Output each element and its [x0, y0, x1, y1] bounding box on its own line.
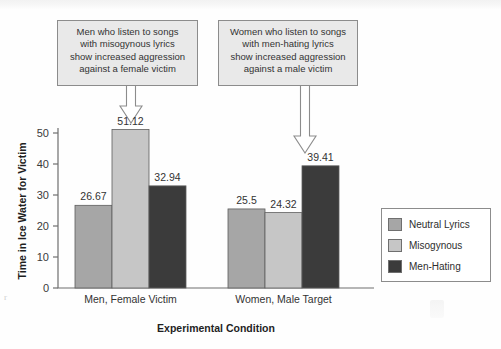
legend-swatch-men-hating	[388, 260, 402, 273]
y-axis-tick-label: 50	[37, 127, 49, 139]
bar-value-label: 24.32	[270, 198, 296, 210]
bar-value-label: 25.5	[236, 194, 257, 206]
y-axis-tick-label: 0	[43, 282, 49, 294]
bar-value-label: 39.41	[307, 151, 333, 163]
legend-label-misogynous: Misogynous	[409, 240, 462, 251]
x-axis-category-label: Men, Female Victim	[84, 293, 177, 305]
legend-swatch-neutral-lyrics	[388, 218, 402, 231]
bar-value-label: 32.94	[154, 171, 180, 183]
legend-item-men-hating: Men-Hating	[388, 256, 484, 277]
y-axis-tick-label: 40	[37, 158, 49, 170]
bar-neutral-lyrics	[75, 205, 112, 288]
legend-label-neutral-lyrics: Neutral Lyrics	[409, 219, 470, 230]
bar-value-label: 26.67	[80, 190, 106, 202]
bar-neutral-lyrics	[228, 209, 265, 288]
bar-men-hating	[302, 166, 339, 288]
bar-value-label: 51.12	[117, 115, 143, 127]
y-axis-tick-label: 30	[37, 189, 49, 201]
y-axis-tick-label: 10	[37, 251, 49, 263]
y-axis-title: Time in Ice Water for Victim	[16, 143, 28, 280]
legend-item-neutral-lyrics: Neutral Lyrics	[388, 214, 484, 235]
y-axis-tick-label: 20	[37, 220, 49, 232]
x-axis-category-label: Women, Male Target	[235, 293, 332, 305]
chart-legend: Neutral Lyrics Misogynous Men-Hating	[381, 208, 491, 282]
bar-misogynous	[112, 130, 149, 288]
bar-misogynous	[265, 213, 302, 288]
chart-page: r Men who listen to songs with misogynou…	[0, 0, 501, 349]
legend-item-misogynous: Misogynous	[388, 235, 484, 256]
x-axis-title: Experimental Condition	[157, 322, 275, 334]
bar-men-hating	[149, 186, 186, 288]
legend-swatch-misogynous	[388, 239, 402, 252]
legend-label-men-hating: Men-Hating	[409, 261, 461, 272]
bar-chart-plot: 01020304050Time in Ice Water for Victim2…	[0, 0, 501, 349]
